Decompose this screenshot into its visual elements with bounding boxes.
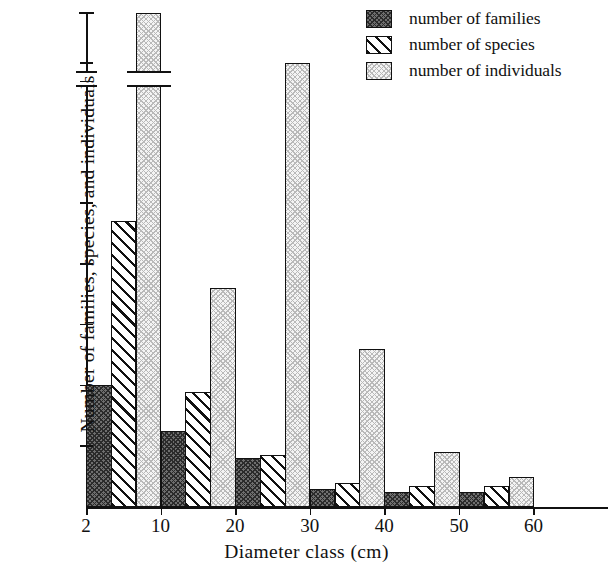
x-tick-mark-10 [161,507,163,515]
bar-chart-figure: number of families number of species num… [0,0,613,570]
bar-individuals-30-40 [359,349,385,507]
bar-break-gap [127,72,171,85]
x-tick-mark-40 [384,507,386,515]
bar-species-50-60 [484,486,510,507]
x-tick-label-40: 40 [354,516,414,535]
x-axis-title: Diameter class (cm) [0,541,613,563]
x-tick-mark-60 [533,507,535,515]
bar-species-40-50 [409,486,435,507]
x-tick-label-50: 50 [429,516,489,535]
bar-individuals-50-60 [509,477,535,507]
x-tick-label-20: 20 [205,516,265,535]
x-tick-mark-30 [310,507,312,515]
x-tick-label-10: 10 [131,516,191,535]
x-tick-label-60: 60 [503,516,563,535]
bar-families-50-60 [459,492,485,507]
bar-families-30-40 [310,489,336,507]
bar-break-rule-lower [127,85,171,87]
x-axis-line [86,507,608,509]
bar-species-20-30 [260,455,286,507]
bar-individuals-20-30 [285,63,311,507]
bar-families-20-30 [235,458,261,507]
x-tick-mark-20 [235,507,237,515]
bar-species-30-40 [335,483,361,507]
bar-species-2-10 [111,221,137,507]
bar-individuals-40-50 [434,452,460,507]
bar-individuals-10-20 [210,288,236,507]
bar-individuals-2-10 [136,13,162,507]
bar-break-rule-upper [127,71,171,73]
x-tick-label-30: 30 [280,516,340,535]
bar-families-40-50 [384,492,410,507]
bar-species-10-20 [185,392,211,508]
y-axis-title: Number of families, species, and individ… [77,0,99,534]
x-tick-mark-50 [459,507,461,515]
bar-families-10-20 [161,431,187,507]
plot-area: 10203040507073298 2102030405060 Number o… [86,0,610,509]
